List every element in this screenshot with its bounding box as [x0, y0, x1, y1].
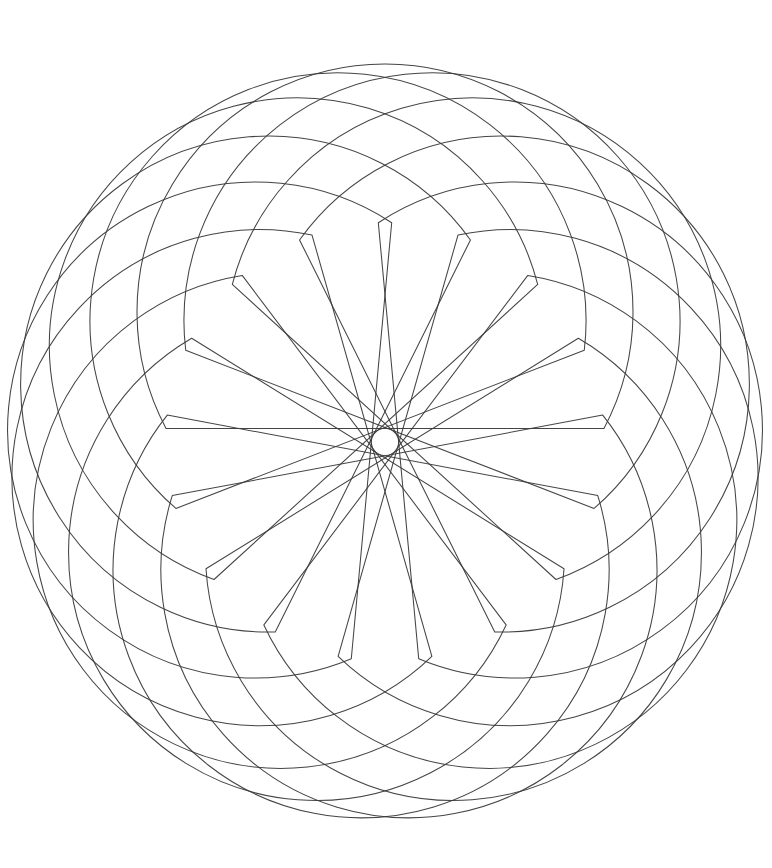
rosette-figure: [0, 0, 772, 868]
artwork-canvas: [0, 0, 772, 868]
background-rect: [0, 0, 772, 868]
